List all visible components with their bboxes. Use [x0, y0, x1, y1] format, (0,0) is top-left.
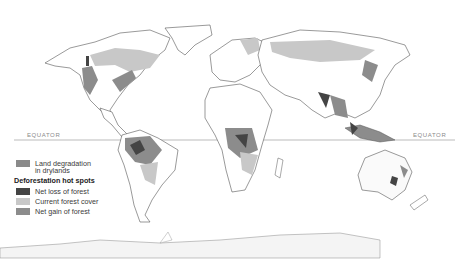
legend-item-current-forest: Current forest cover — [16, 198, 99, 205]
legend-swatch — [16, 188, 30, 195]
legend-label: Current forest cover — [35, 198, 99, 205]
legend-swatch — [16, 160, 30, 167]
legend-item-dryland: Land degradation in drylands — [16, 160, 99, 174]
antarctica — [0, 233, 380, 258]
legend-label: Land degradation in drylands — [35, 160, 91, 174]
legend-item-net-loss: Net loss of forest — [16, 188, 99, 195]
asia — [258, 30, 410, 142]
legend-label: Net loss of forest — [35, 188, 89, 195]
north-america — [45, 25, 212, 137]
legend-swatch — [16, 208, 30, 215]
legend-item-net-gain: Net gain of forest — [16, 208, 99, 215]
map-legend: Land degradation in drylands Deforestati… — [16, 160, 99, 218]
world-map — [0, 0, 466, 273]
equator-label-left: EQUATOR — [27, 132, 60, 138]
legend-label: Net gain of forest — [35, 208, 90, 215]
australia — [358, 150, 428, 210]
africa — [205, 84, 283, 192]
legend-swatch — [16, 198, 30, 205]
legend-label-line2: in drylands — [35, 166, 70, 175]
south-america — [118, 130, 178, 222]
equator-label-right: EQUATOR — [413, 132, 446, 138]
legend-section-title: Deforestation hot spots — [14, 177, 99, 184]
